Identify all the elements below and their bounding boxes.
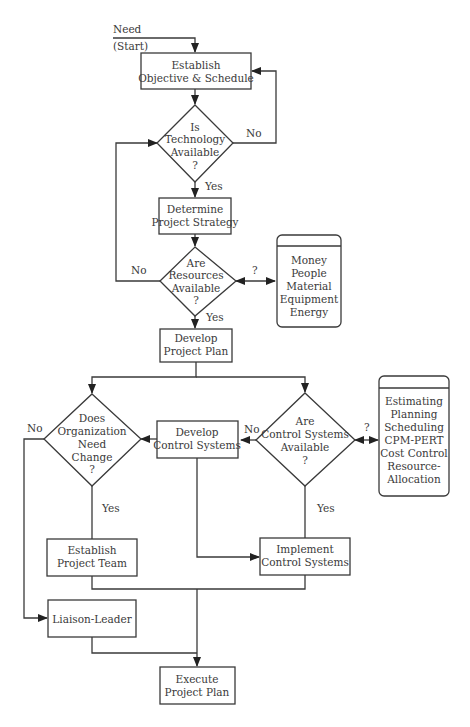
node-text: Establish [171,59,220,71]
label-control-no: No [244,423,260,435]
node-text: Liaison-Leader [52,613,132,625]
node-text: Execute [176,673,219,685]
node-text: ? [89,463,95,475]
resource-item: Money [291,254,327,266]
resource-item: Equipment [280,293,339,305]
label-control-yes: Yes [316,502,335,514]
node-establish-team: Establish Project Team [47,539,137,576]
decision-org-need-change: Does Organization Need Change ? [44,394,141,486]
node-text: Control Systems [153,439,241,451]
node-text: Available [280,441,330,453]
connector-plan-to-control [196,377,305,392]
label-org-yes: Yes [101,502,120,514]
node-develop-control-systems: Develop Control Systems [153,421,241,458]
flowchart: Need (Start) Establish Objective & Sched… [0,0,470,727]
node-text: Control Systems [261,556,349,568]
label-org-no: No [27,422,43,434]
node-text: ? [302,454,308,466]
node-text: Change [72,451,113,463]
connector-resources-no [116,143,160,281]
node-text: ? [193,294,199,306]
node-text: Available [170,146,220,158]
node-text: Project Plan [165,686,230,698]
node-text: Develop [175,426,218,438]
node-text: Is [190,121,200,133]
control-tool-item: Allocation [386,473,441,485]
node-liaison-leader: Liaison-Leader [48,600,136,637]
control-tool-item: CPM-PERT [385,434,444,446]
label-tech-yes: Yes [204,180,223,192]
control-tool-item: Estimating [385,395,443,407]
connector-org-no [24,439,47,618]
node-text: Project Plan [164,345,229,357]
node-execute-plan: Execute Project Plan [160,667,235,704]
node-text: Establish [67,544,116,556]
control-tools-list-box: Estimating Planning Scheduling CPM-PERT … [379,376,449,496]
label-resources-yes: Yes [205,311,224,323]
control-tool-item: Resource- [387,460,441,472]
node-establish-objective: Establish Objective & Schedule [138,53,254,89]
node-develop-plan: Develop Project Plan [160,329,232,362]
decision-technology-available: Is Technology Available ? [157,105,233,182]
decision-control-systems-available: Are Control Systems Available ? [256,393,355,486]
label-control-query: ? [364,421,370,433]
resources-list-box: Money People Material Equipment Energy [277,235,341,327]
node-text: Project Strategy [151,216,238,228]
connector-liaison-to-execute [92,637,197,653]
node-text: Project Team [57,557,127,569]
node-implement-control-systems: Implement Control Systems [260,538,350,575]
control-tool-item: Planning [390,408,437,420]
node-text: Control Systems [261,428,349,440]
node-text: Implement [276,543,334,555]
control-tool-item: Cost Control [380,447,448,459]
connector-plan-split [92,362,196,392]
node-text: Organization [57,425,126,437]
resource-item: People [291,267,326,279]
node-text: Resources [168,269,223,281]
node-text: Need [78,438,107,450]
node-determine-strategy: Determine Project Strategy [151,198,238,234]
node-text: Technology [165,133,226,145]
node-text: Develop [174,332,217,344]
resource-item: Energy [290,306,328,318]
node-text: Objective & Schedule [138,72,254,84]
decision-resources-available: Are Resources Available ? [160,247,236,316]
node-text: ? [192,159,198,171]
control-tool-item: Scheduling [384,421,444,433]
label-resources-query: ? [252,264,258,276]
node-text: Available [171,282,221,294]
start-label: (Start) [113,40,148,52]
node-text: Determine [167,203,223,215]
resource-item: Material [286,280,332,292]
connector-devctrl-to-implement [197,458,259,557]
node-text: Are [186,257,206,269]
node-text: Does [79,412,105,424]
node-text: Are [295,415,315,427]
start-need-label: Need [113,23,142,35]
label-tech-no: No [246,127,262,139]
label-resources-no: No [131,264,147,276]
